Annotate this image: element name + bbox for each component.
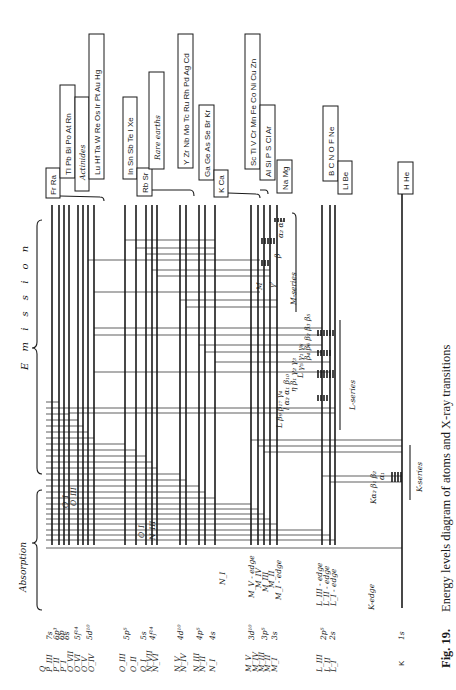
svg-text:N_I: N_I [208, 658, 217, 673]
element-brackets [60, 190, 268, 201]
element-label-in-xe: In Sn Sb Te I Xe [126, 117, 135, 175]
svg-text:3d¹⁰: 3d¹⁰ [247, 624, 256, 640]
m-series-gamma-label: γ' [268, 281, 277, 288]
element-label-y-cd: Y Zr Nb Mo Tc Ru Rh Pd Ag Cd [182, 53, 191, 165]
svg-text:1s: 1s [397, 631, 406, 640]
emission-brace [32, 220, 42, 474]
m-series-label: M-series [289, 272, 298, 306]
figure-caption-text: Energy levels diagram of atoms and X-ray… [439, 344, 453, 612]
element-label-al-ar: Al Si P S Cl Ar [264, 126, 273, 177]
element-group-boxes: Fr Ra Tl Pb Bi Po At Rn Actinides Lu Hf … [46, 34, 413, 198]
emission-transitions [64, 240, 402, 482]
edge-label-m1: M_I - edge [274, 559, 283, 601]
svg-text:5d¹⁰: 5d¹⁰ [85, 624, 94, 640]
shell-labels: Q P_III P_II P_I O_VII O_VI O_V O_IV O_I… [38, 649, 406, 673]
energy-level-diagram: Fr Ra Tl Pb Bi Po At Rn Actinides Lu Hf … [0, 0, 456, 690]
element-label-actinides: Actinides [78, 145, 87, 181]
svg-text:2p⁵: 2p⁵ [319, 627, 328, 641]
element-label-libe: Li Be [341, 171, 350, 190]
element-label-hhe: H He [402, 171, 411, 190]
svg-text:4p⁵: 4p⁵ [195, 627, 204, 641]
svg-text:2s: 2s [328, 631, 337, 641]
edge-label-n-o1: O_I [137, 524, 146, 538]
element-label-rare-earths: Rare earths [153, 115, 162, 161]
edge-label-l1: L_I - edge [329, 568, 338, 607]
emission-section-label: E m i s s i o n [19, 242, 30, 371]
figure-caption: Fig. 19. Energy levels diagram of atoms … [439, 344, 453, 668]
k-series-label: K-series [415, 462, 424, 493]
m-series-beta-label: β [273, 253, 282, 259]
element-label-frra: Fr Ra [49, 174, 58, 195]
svg-text:3p⁵: 3p⁵ [260, 627, 269, 640]
edge-label-o3: O_III [69, 486, 78, 506]
absorption-section-label: Absorption [18, 542, 28, 593]
svg-text:O_III: O_III [118, 652, 127, 672]
transition-arrows [262, 218, 401, 482]
figure-number: Fig. 19. [439, 629, 453, 668]
svg-text:O_II: O_II [129, 655, 138, 672]
element-label-rbsr: Rb Sr [141, 172, 150, 193]
svg-text:4f¹⁴: 4f¹⁴ [148, 626, 157, 641]
svg-text:4d¹⁰: 4d¹⁰ [176, 624, 185, 641]
svg-text:K: K [397, 660, 406, 666]
element-label-b-ne: B C N O F Ne [327, 126, 336, 176]
svg-text:5p⁵: 5p⁵ [122, 627, 131, 640]
element-label-kca: K Ca [217, 175, 226, 193]
svg-text:5s: 5s [139, 631, 148, 640]
orbital-labels: 7s 6p³ 6p 6s 5f¹⁴ 5d¹⁰ 5p⁵ 5s 4f¹⁴ 4d¹⁰ … [45, 624, 406, 641]
element-label-tl-rn: Tl Pb Bi Po At Rn [64, 113, 73, 175]
edge-label-n3: N_III [148, 520, 157, 541]
svg-text:3s: 3s [270, 631, 279, 640]
svg-text:M_I: M_I [270, 657, 279, 673]
svg-text:L_I: L_I [329, 659, 338, 673]
svg-text:N_VI: N_VI [151, 652, 160, 673]
svg-text:5f¹⁴: 5f¹⁴ [73, 626, 82, 640]
element-label-namg: Na Mg [281, 166, 290, 190]
svg-text:4s: 4s [208, 631, 217, 641]
element-label-sc-zn: Sc Ti V Cr Mn Fe Co Ni Cu Zn [249, 59, 258, 166]
svg-text:O_IV: O_IV [87, 652, 96, 672]
absorption-brace [32, 490, 42, 610]
edge-label-n1: N_I [218, 571, 227, 586]
svg-text:N_II: N_II [198, 655, 207, 673]
svg-text:6s: 6s [62, 631, 71, 640]
element-label-ga-kr: Ga Ge As Se Br Kr [203, 110, 212, 177]
element-label-lu-hg: Lu Hf Ta W Re Os Ir Pt Au Hg [93, 70, 102, 175]
edge-label-k: K-edge [367, 583, 376, 611]
absorption-edges [46, 402, 402, 548]
l-series-line-5: L β₉ β₁₇ γ₄ [275, 391, 284, 429]
l-series-label: L-series [348, 380, 357, 411]
svg-text:N_IV: N_IV [179, 652, 188, 673]
m-series-alpha-label: α₂ α₁ [276, 219, 285, 238]
m-series-m-label: M [255, 282, 264, 291]
k-series-alpha1-label: α₁ [377, 472, 386, 480]
